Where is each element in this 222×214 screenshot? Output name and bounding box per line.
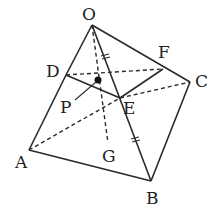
tick-mark-OE xyxy=(101,54,110,59)
label-O: O xyxy=(82,4,96,24)
edge-OC xyxy=(92,25,190,82)
label-A: A xyxy=(14,152,28,172)
segment-DF xyxy=(66,69,163,75)
label-F: F xyxy=(158,42,170,62)
pyramid-diagram: O D F C P E G A B xyxy=(0,0,222,214)
label-G: G xyxy=(102,146,116,166)
label-B: B xyxy=(146,188,159,208)
edge-AB xyxy=(29,150,151,181)
edge-OD xyxy=(66,25,92,75)
edge-BC xyxy=(151,82,190,181)
pointer-P xyxy=(75,82,96,100)
edge-OB xyxy=(92,25,151,181)
label-P: P xyxy=(60,97,71,117)
label-C: C xyxy=(195,71,208,91)
label-D: D xyxy=(46,61,60,81)
label-E: E xyxy=(123,98,135,118)
